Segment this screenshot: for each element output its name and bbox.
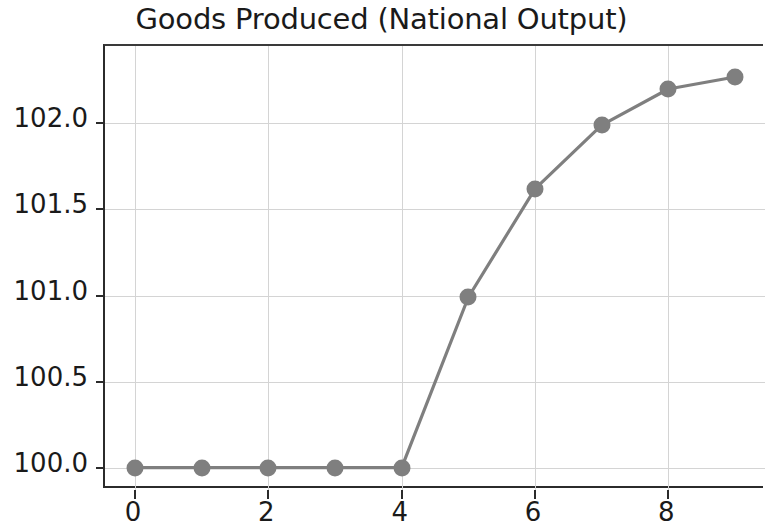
data-point-marker	[593, 117, 610, 134]
x-axis-tick-label: 0	[125, 497, 142, 522]
y-axis-tick-label: 101.0	[14, 276, 88, 306]
series-markers	[105, 46, 763, 486]
y-axis-tick-label: 101.5	[14, 189, 88, 219]
data-point-marker	[327, 459, 344, 476]
y-axis-tick-label: 100.5	[14, 362, 88, 392]
y-axis-tick-mark	[96, 381, 105, 383]
data-point-marker	[460, 289, 477, 306]
x-axis-tick-label: 6	[525, 497, 542, 522]
data-point-marker	[660, 81, 677, 98]
y-axis-tick-mark	[96, 122, 105, 124]
y-axis-tick-labels: 100.0100.5101.0101.5102.0	[0, 44, 88, 488]
chart-title: Goods Produced (National Output)	[0, 2, 763, 36]
y-axis-tick-label: 100.0	[14, 448, 88, 478]
data-point-marker	[527, 180, 544, 197]
y-axis-tick-mark	[96, 208, 105, 210]
data-point-marker	[393, 459, 410, 476]
x-axis-tick-label: 2	[258, 497, 275, 522]
data-point-marker	[193, 459, 210, 476]
x-axis-tick-label: 4	[391, 497, 408, 522]
data-point-marker	[127, 459, 144, 476]
data-point-marker	[727, 68, 744, 85]
y-axis-tick-label: 102.0	[14, 103, 88, 133]
x-axis-tick-labels: 02468	[103, 497, 763, 522]
plot-area	[103, 44, 763, 488]
data-point-marker	[260, 459, 277, 476]
y-axis-tick-mark	[96, 295, 105, 297]
y-axis-tick-mark	[96, 467, 105, 469]
x-axis-tick-label: 8	[658, 497, 675, 522]
